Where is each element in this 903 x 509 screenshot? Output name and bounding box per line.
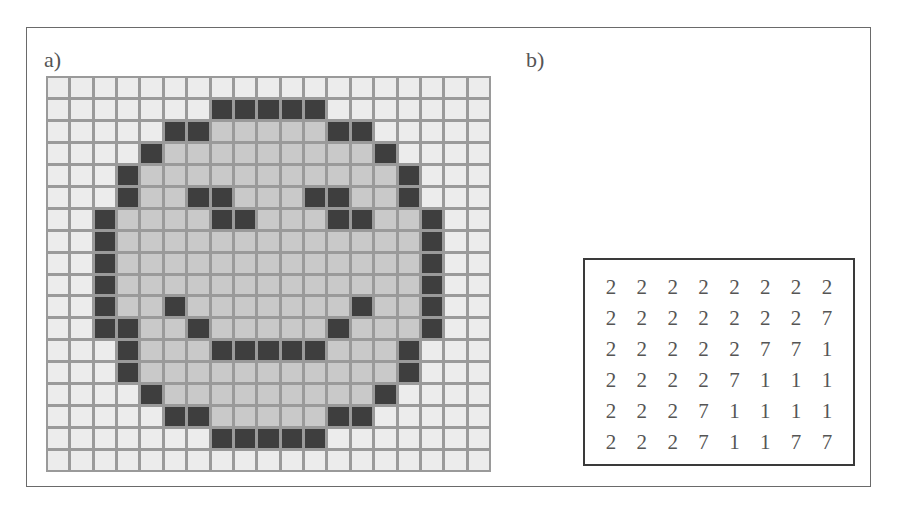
grid-cell <box>352 341 372 360</box>
grid-cell <box>71 276 91 295</box>
grid-cell <box>305 297 325 316</box>
grid-cell <box>375 319 395 338</box>
matrix-value: 2 <box>632 337 652 362</box>
grid-cell <box>399 319 419 338</box>
grid-cell <box>422 210 442 229</box>
grid-cell <box>188 78 208 97</box>
grid-cell <box>422 385 442 404</box>
grid-cell <box>305 363 325 382</box>
grid-cell <box>399 232 419 251</box>
grid-cell <box>258 363 278 382</box>
grid-cell <box>188 166 208 185</box>
grid-cell <box>328 210 348 229</box>
grid-cell <box>48 451 68 470</box>
grid-cell <box>95 363 115 382</box>
grid-cell <box>469 385 489 404</box>
grid-cell <box>48 297 68 316</box>
matrix-value: 2 <box>632 275 652 300</box>
grid-cell <box>469 363 489 382</box>
grid-cell <box>118 451 138 470</box>
grid-cell <box>118 232 138 251</box>
smiley-pixel-grid <box>46 76 491 472</box>
grid-cell <box>375 407 395 426</box>
grid-cell <box>95 341 115 360</box>
grid-cell <box>212 210 232 229</box>
grid-cell <box>399 122 419 141</box>
grid-cell <box>258 144 278 163</box>
grid-cell <box>469 254 489 273</box>
grid-cell <box>212 166 232 185</box>
grid-cell <box>399 78 419 97</box>
grid-cell <box>95 210 115 229</box>
chain-code-matrix: 2222222222222227222227712222711122271111… <box>583 258 855 466</box>
grid-cell <box>235 451 255 470</box>
matrix-value: 2 <box>663 399 683 424</box>
grid-cell <box>118 78 138 97</box>
grid-cell <box>399 188 419 207</box>
grid-cell <box>188 385 208 404</box>
matrix-value: 7 <box>786 430 806 455</box>
grid-cell <box>95 297 115 316</box>
matrix-value: 2 <box>694 275 714 300</box>
grid-cell <box>282 429 302 448</box>
grid-cell <box>212 407 232 426</box>
grid-cell <box>118 385 138 404</box>
matrix-value: 2 <box>601 306 621 331</box>
grid-cell <box>95 319 115 338</box>
matrix-value: 2 <box>663 275 683 300</box>
grid-cell <box>258 407 278 426</box>
grid-cell <box>71 188 91 207</box>
grid-cell <box>282 100 302 119</box>
grid-cell <box>235 429 255 448</box>
grid-cell <box>328 276 348 295</box>
grid-cell <box>71 100 91 119</box>
grid-cell <box>375 122 395 141</box>
grid-cell <box>235 297 255 316</box>
grid-cell <box>141 188 161 207</box>
grid-cell <box>469 144 489 163</box>
grid-cell <box>188 341 208 360</box>
grid-cell <box>445 232 465 251</box>
matrix-value: 1 <box>755 430 775 455</box>
matrix-value: 2 <box>601 399 621 424</box>
grid-cell <box>305 166 325 185</box>
grid-cell <box>375 254 395 273</box>
grid-cell <box>469 407 489 426</box>
grid-cell <box>445 100 465 119</box>
grid-cell <box>328 385 348 404</box>
grid-cell <box>95 276 115 295</box>
matrix-value: 1 <box>817 399 837 424</box>
grid-cell <box>352 188 372 207</box>
grid-cell <box>165 341 185 360</box>
grid-cell <box>399 166 419 185</box>
matrix-value: 2 <box>724 275 744 300</box>
grid-cell <box>235 188 255 207</box>
grid-cell <box>235 341 255 360</box>
grid-cell <box>71 319 91 338</box>
grid-cell <box>305 385 325 404</box>
grid-cell <box>165 144 185 163</box>
grid-cell <box>235 100 255 119</box>
grid-cell <box>48 210 68 229</box>
grid-cell <box>258 254 278 273</box>
matrix-value: 2 <box>694 306 714 331</box>
grid-cell <box>469 276 489 295</box>
grid-cell <box>282 254 302 273</box>
grid-cell <box>212 363 232 382</box>
grid-cell <box>118 144 138 163</box>
grid-cell <box>469 78 489 97</box>
grid-cell <box>282 451 302 470</box>
grid-cell <box>469 122 489 141</box>
grid-cell <box>422 232 442 251</box>
grid-cell <box>165 232 185 251</box>
matrix-value: 1 <box>724 399 744 424</box>
matrix-value: 2 <box>755 275 775 300</box>
matrix-value: 1 <box>786 368 806 393</box>
grid-cell <box>352 451 372 470</box>
grid-cell <box>422 166 442 185</box>
grid-cell <box>212 451 232 470</box>
grid-cell <box>141 363 161 382</box>
matrix-value: 7 <box>694 430 714 455</box>
grid-cell <box>212 188 232 207</box>
grid-cell <box>71 385 91 404</box>
